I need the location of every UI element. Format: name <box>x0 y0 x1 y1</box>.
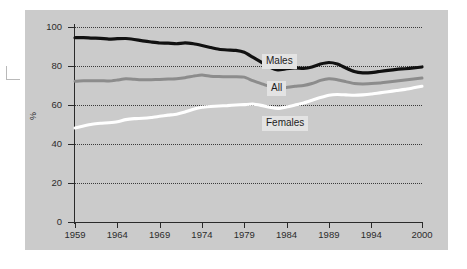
series-label-females: Females <box>262 116 308 131</box>
series-line-females <box>75 86 422 128</box>
series-label-males: Males <box>262 54 297 69</box>
series-canvas <box>0 0 467 269</box>
series-line-males <box>75 38 422 73</box>
series-label-all: All <box>267 81 286 96</box>
series-line-all <box>75 75 422 88</box>
figure-root: 020406080100 195919641969197419791984198… <box>0 0 467 269</box>
